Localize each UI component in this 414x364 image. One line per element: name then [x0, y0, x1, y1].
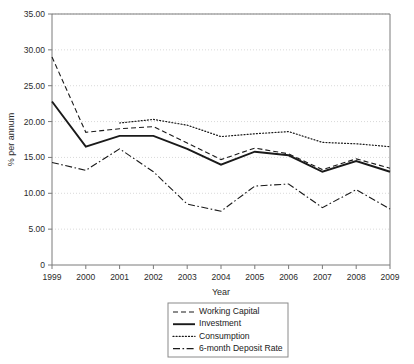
y-tick-label: 30.00	[24, 45, 46, 55]
x-tick-label: 2002	[144, 272, 163, 282]
legend-label: Investment	[199, 318, 242, 328]
x-tick-label: 2008	[347, 272, 366, 282]
x-tick-label: 2005	[245, 272, 264, 282]
line-chart: 05.0010.0015.0020.0025.0030.0035.0019992…	[0, 0, 414, 364]
y-tick-label: 10.00	[24, 188, 46, 198]
x-tick-label: 2001	[110, 272, 129, 282]
x-tick-label: 2003	[178, 272, 197, 282]
series-line-consumption	[120, 119, 390, 146]
chart-canvas: 05.0010.0015.0020.0025.0030.0035.0019992…	[0, 0, 414, 364]
x-tick-label: 1999	[43, 272, 62, 282]
x-tick-label: 2000	[76, 272, 95, 282]
y-tick-label: 15.00	[24, 152, 46, 162]
y-tick-label: 20.00	[24, 117, 46, 127]
y-tick-label: 25.00	[24, 81, 46, 91]
x-tick-label: 2007	[313, 272, 332, 282]
series-line-working-capital	[52, 57, 390, 170]
legend-label: Working Capital	[199, 306, 260, 316]
x-tick-label: 2004	[212, 272, 231, 282]
y-axis-title: % per annum	[6, 113, 16, 167]
legend-label: 6-month Deposit Rate	[199, 343, 283, 353]
x-tick-label: 2009	[381, 272, 400, 282]
series-line-investment	[52, 101, 390, 171]
y-tick-label: 0	[40, 260, 45, 270]
x-axis-title: Year	[212, 287, 230, 297]
x-tick-label: 2006	[279, 272, 298, 282]
y-tick-label: 5.00	[28, 224, 45, 234]
series-line-6-month-deposit-rate	[52, 149, 390, 211]
legend-label: Consumption	[199, 331, 250, 341]
y-tick-label: 35.00	[24, 9, 46, 19]
